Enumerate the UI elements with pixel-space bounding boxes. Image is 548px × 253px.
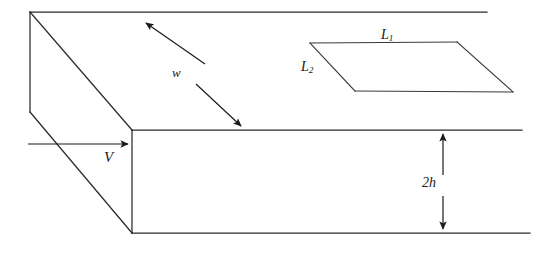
label-patch-length-2: L2 [301, 60, 313, 75]
label-height-prefix: 2 [422, 175, 429, 190]
edge-top-left-diagonal [30, 12, 132, 130]
figure-canvas: w V 2h L1 L2 [0, 0, 548, 253]
label-L1-base: L [381, 27, 389, 42]
label-height-base: h [429, 175, 436, 190]
label-L1-subscript: 1 [389, 33, 394, 43]
label-width-w: w [172, 66, 181, 79]
patch-edge-right [457, 42, 513, 92]
channel-outline [30, 12, 530, 233]
label-L2-base: L [301, 59, 309, 74]
width-arrow-lower-segment [196, 84, 241, 126]
patch-edge-bottom [355, 91, 513, 92]
edge-left-lower-diagonal [30, 112, 132, 233]
label-L2-subscript: 2 [309, 65, 314, 75]
channel-flow-diagram [0, 0, 548, 253]
patch-edge-left-L2 [310, 43, 355, 91]
label-velocity-v: V [104, 150, 113, 165]
surface-patch [310, 42, 513, 92]
width-dimension-arrow [146, 23, 241, 126]
label-patch-length-1: L1 [381, 28, 393, 43]
width-arrow-upper-segment [146, 23, 205, 64]
label-height-2h: 2h [422, 176, 436, 190]
